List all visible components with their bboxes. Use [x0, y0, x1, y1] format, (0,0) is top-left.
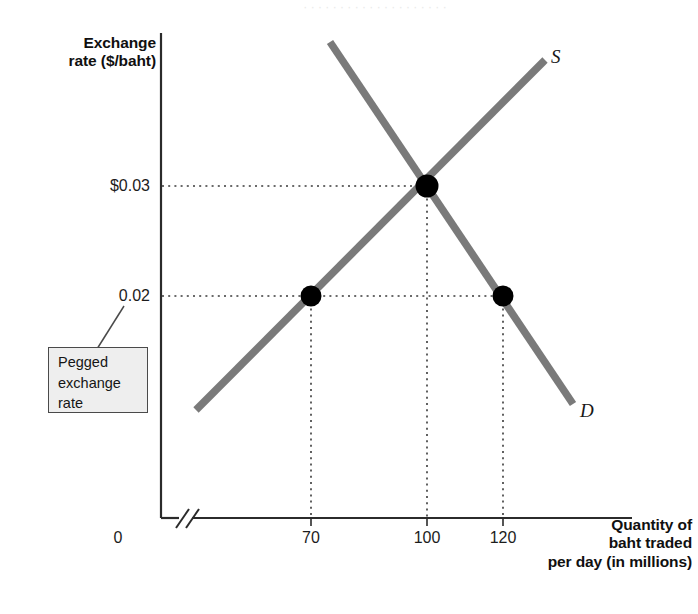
- y-tick-label-0-03: $0.03: [58, 177, 150, 196]
- point-market-equilibrium: [416, 175, 439, 198]
- supply-demand-figure: · · · · · · · · · · · · · · · · · · · ·: [0, 0, 698, 614]
- callout-leader-line: [97, 306, 124, 349]
- curve-group: [196, 42, 573, 410]
- pegged-rate-callout-text: Pegged exchange rate: [58, 352, 150, 414]
- x-tick-label-120: 120: [473, 529, 533, 548]
- y-axis-title: Exchange rate ($/baht): [36, 34, 156, 71]
- y-tick-label-0-02: 0.02: [58, 287, 150, 306]
- point-quantity-supplied-at-peg: [301, 286, 322, 307]
- demand-curve-label: D: [580, 400, 594, 422]
- supply-curve-label: S: [551, 46, 561, 68]
- axis-group: [161, 33, 632, 528]
- point-quantity-demanded-at-peg: [493, 286, 514, 307]
- x-tick-label-70: 70: [281, 529, 341, 548]
- guide-lines: [162, 186, 503, 517]
- demand-curve: [330, 42, 573, 404]
- x-tick-label-100: 100: [397, 529, 457, 548]
- supply-curve: [196, 60, 545, 410]
- origin-label: 0: [88, 529, 148, 548]
